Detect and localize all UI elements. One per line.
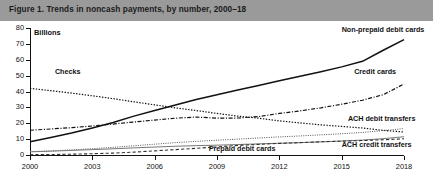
x-tick-mark <box>217 156 218 160</box>
y-axis-unit-label: Billions <box>34 29 61 37</box>
y-tick-label: 40 <box>0 88 24 95</box>
figure-title: Figure 1. Trends in noncash payments, by… <box>9 5 246 14</box>
x-tick-label: 2006 <box>140 163 170 171</box>
x-tick-label: 2009 <box>202 163 232 171</box>
x-tick-label: 2018 <box>389 163 419 171</box>
x-tick-label: 2000 <box>15 163 45 171</box>
series-label-ach-debit-transfers: ACH debit transfers <box>348 115 416 123</box>
y-tick-mark <box>26 60 30 61</box>
y-tick-label: 70 <box>0 40 24 47</box>
x-tick-mark <box>404 156 405 160</box>
y-tick-label: 80 <box>0 24 24 31</box>
y-tick-label: 10 <box>0 135 24 142</box>
series-label-ach-credit-transfers: ACH credit transfers <box>342 141 412 149</box>
x-tick-label: 2012 <box>264 163 294 171</box>
x-tick-mark <box>342 156 343 160</box>
y-tick-label: 30 <box>0 103 24 110</box>
x-tick-label: 2003 <box>77 163 107 171</box>
y-tick-label: 20 <box>0 119 24 126</box>
x-tick-mark <box>30 156 31 160</box>
y-tick-mark <box>26 123 30 124</box>
y-tick-mark <box>26 28 30 29</box>
y-tick-mark <box>26 107 30 108</box>
series-label-credit-cards: Credit cards <box>354 68 396 76</box>
y-tick-label: 60 <box>0 56 24 63</box>
figure-container: Figure 1. Trends in noncash payments, by… <box>0 0 433 176</box>
series-line <box>30 88 404 132</box>
y-tick-mark <box>26 139 30 140</box>
y-tick-mark <box>26 44 30 45</box>
series-label-prepaid-debit-cards: Prepaid debit cards <box>209 145 276 153</box>
y-tick-mark <box>26 92 30 93</box>
series-line <box>30 84 404 130</box>
figure-title-bar: Figure 1. Trends in noncash payments, by… <box>0 0 433 21</box>
x-tick-mark <box>155 156 156 160</box>
y-tick-label: 50 <box>0 72 24 79</box>
y-tick-mark <box>26 76 30 77</box>
y-tick-label: 0 <box>0 151 24 158</box>
x-tick-label: 2015 <box>327 163 357 171</box>
y-axis-line <box>30 28 31 156</box>
series-label-non-prepaid-debit-cards: Non-prepaid debit cards <box>342 26 425 34</box>
series-line <box>30 40 404 142</box>
x-tick-mark <box>279 156 280 160</box>
series-label-checks: Checks <box>55 68 81 76</box>
x-tick-mark <box>92 156 93 160</box>
